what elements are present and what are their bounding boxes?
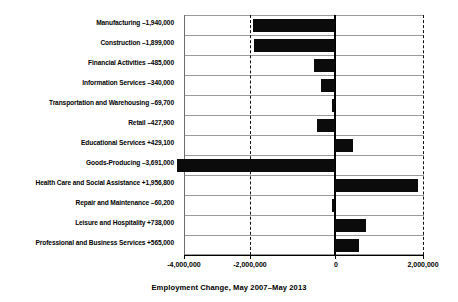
x-axis-line xyxy=(184,255,424,256)
category-label-goods-producing: Goods-Producing –3,691,000 xyxy=(0,159,174,167)
category-label-financial-activities: Financial Activities –485,000 xyxy=(0,59,174,67)
category-label-construction: Construction –1,899,000 xyxy=(0,39,174,47)
x-axis-tick-minus-2m xyxy=(250,255,251,259)
employment-change-bar-chart: Manufacturing –1,940,000 Construction –1… xyxy=(0,0,458,302)
x-axis-label-plus-2m: 2,000,000 xyxy=(407,261,438,268)
category-label-manufacturing: Manufacturing –1,940,000 xyxy=(0,19,174,27)
gridline-minus-4m xyxy=(184,15,185,255)
category-label-professional-and-business-services: Professional and Business Services +565,… xyxy=(0,239,174,247)
row-separator xyxy=(184,35,424,36)
category-label-information-services: Information Services –340,000 xyxy=(0,79,174,87)
plot-area xyxy=(184,15,424,255)
row-separator xyxy=(184,55,424,56)
bar-manufacturing xyxy=(253,19,336,32)
row-separator xyxy=(184,15,424,16)
row-separator xyxy=(184,235,424,236)
bar-professional-and-business-services xyxy=(335,239,359,252)
x-axis-label-minus-4m: -4,000,000 xyxy=(167,261,200,268)
category-label-repair-and-maintenance: Repair and Maintenance –60,200 xyxy=(0,199,174,207)
bar-financial-activities xyxy=(314,59,335,72)
category-label-column: Manufacturing –1,940,000 Construction –1… xyxy=(0,15,180,255)
x-axis-tick-minus-4m xyxy=(184,255,185,259)
bar-construction xyxy=(254,39,335,52)
category-label-transportation-and-warehousing: Transportation and Warehousing –69,700 xyxy=(0,99,174,107)
row-separator xyxy=(184,175,424,176)
x-axis-title: Employment Change, May 2007–May 2013 xyxy=(0,283,458,292)
x-axis-label-minus-2m: -2,000,000 xyxy=(233,261,266,268)
gridline-minus-2m xyxy=(250,15,251,255)
bar-goods-producing xyxy=(177,159,335,172)
category-label-retail: Retail –427,900 xyxy=(0,119,174,127)
x-axis-tick-plus-2m xyxy=(423,255,424,259)
category-label-health-care-and-social-assistance: Health Care and Social Assistance +1,956… xyxy=(0,179,174,187)
bar-information-services xyxy=(321,79,335,92)
row-separator xyxy=(184,135,424,136)
bar-educational-services xyxy=(335,139,353,152)
row-separator xyxy=(184,95,424,96)
x-axis-tick-zero xyxy=(335,255,336,259)
category-label-leisure-and-hospitality: Leisure and Hospitality +738,000 xyxy=(0,219,174,227)
row-separator xyxy=(184,195,424,196)
category-label-educational-services: Educational Services +429,100 xyxy=(0,139,174,147)
bar-retail xyxy=(317,119,335,132)
row-separator xyxy=(184,75,424,76)
bar-transportation-and-warehousing xyxy=(332,99,335,112)
gridline-plus-2m xyxy=(423,15,424,255)
row-separator xyxy=(184,215,424,216)
bar-health-care-and-social-assistance xyxy=(335,179,418,192)
x-axis-label-zero: 0 xyxy=(334,261,338,268)
bar-leisure-and-hospitality xyxy=(335,219,366,232)
bar-repair-and-maintenance xyxy=(332,199,335,212)
row-separator xyxy=(184,115,424,116)
row-separator xyxy=(184,155,424,156)
